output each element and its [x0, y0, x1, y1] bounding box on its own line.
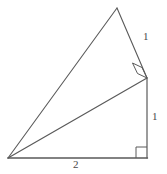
right-angle-bottom-right-icon: [136, 147, 147, 158]
segment-long-left-side: [8, 8, 117, 158]
side-label-base: 2: [73, 159, 79, 170]
side-label-vertical-right: 1: [152, 111, 158, 122]
figure-canvas: [0, 0, 167, 174]
segment-hypotenuse-inner: [8, 78, 147, 158]
side-label-upper-right: 1: [143, 31, 149, 42]
geometry-figure: 1 1 2: [0, 0, 167, 174]
right-angle-upper-corner-icon: [133, 63, 148, 78]
